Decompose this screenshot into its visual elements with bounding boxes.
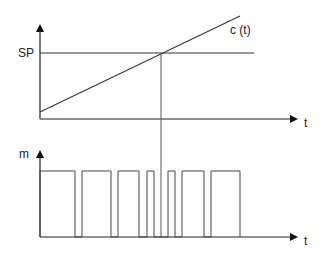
top-x-axis-arrow-icon: [290, 115, 298, 123]
bottom-y-axis-label: m: [19, 148, 29, 160]
diagram-canvas: [0, 0, 324, 257]
setpoint-label: SP: [18, 47, 34, 59]
curve-label: c (t): [230, 24, 251, 36]
top-x-axis-label: t: [304, 117, 307, 129]
bottom-y-axis-arrow-icon: [36, 150, 44, 158]
bottom-x-axis-arrow-icon: [290, 233, 298, 241]
control-diagram: SP c (t) t m t: [0, 0, 324, 257]
pwm-pulse-train: [40, 171, 240, 237]
bottom-plot: [36, 150, 298, 241]
top-y-axis-arrow-icon: [36, 24, 44, 32]
ramp-curve-c-t: [40, 16, 240, 112]
top-plot: [36, 16, 298, 123]
bottom-x-axis-label: t: [304, 235, 307, 247]
